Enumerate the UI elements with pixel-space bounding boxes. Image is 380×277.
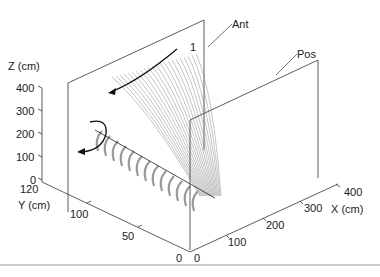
x-tick-400: 400 [344,186,362,198]
upper-direction-arrow [113,49,177,91]
x-tick-100: 100 [228,236,246,248]
y-tick-100: 100 [70,208,88,220]
y-axis [42,182,190,252]
pos-label: Pos [297,48,316,60]
y-tick-120: 120 [20,183,38,195]
3d-plot: Z (cm) 400 300 200 100 0 120 Y (cm) 100 … [0,0,380,277]
lower-coil-segments [97,131,198,211]
upper-arrowhead-icon [108,88,116,95]
z-tick-300: 300 [16,105,34,117]
lower-rotation-arrow [82,121,106,152]
lower-arrowhead-icon [77,148,85,155]
z-axis [38,86,42,182]
coil-axis-line [95,130,215,198]
x-tick-300: 300 [304,202,322,214]
z-axis-label: Z (cm) [8,60,40,72]
y-tick-50: 50 [122,230,134,242]
z-tick-100: 100 [16,151,34,163]
x-axis-label: X (cm) [331,203,363,215]
z-tick-200: 200 [16,128,34,140]
ant-leader-line [208,24,232,47]
z-tick-400: 400 [16,82,34,94]
pos-plane [190,60,318,250]
upper-sweep-surface [112,54,221,196]
x-tick-200: 200 [266,219,284,231]
start-marker: 1 [190,41,196,53]
x-tick-0: 0 [194,252,200,264]
pos-leader-line [276,54,297,75]
y-axis-label: Y (cm) [18,199,50,211]
y-tick-0: 0 [176,252,182,264]
ant-label: Ant [232,18,249,30]
